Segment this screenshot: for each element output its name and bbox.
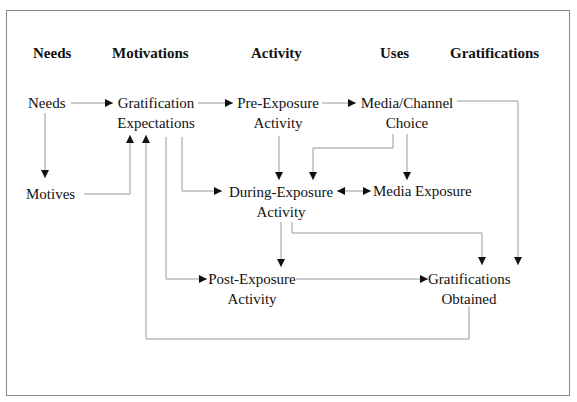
node-gratification-expectations-line2: Expectations: [114, 113, 198, 133]
node-gratification-expectations-line1: Gratification: [114, 93, 198, 113]
header-uses: Uses: [380, 45, 409, 62]
node-during-exposure-line1: During-Exposure: [224, 182, 338, 202]
edge-motives-to-expectations: [84, 135, 130, 194]
node-media-channel-choice: Media/Channel Choice: [356, 93, 458, 133]
node-motives: Motives: [26, 184, 75, 204]
node-post-exposure-line2: Activity: [208, 289, 296, 309]
node-motives-label: Motives: [26, 184, 75, 204]
header-motivations: Motivations: [112, 45, 189, 62]
node-post-exposure-activity: Post-Exposure Activity: [208, 269, 296, 309]
node-gratifications-obtained-line2: Obtained: [428, 289, 510, 309]
node-gratifications-obtained-line1: Gratifications: [428, 269, 510, 289]
edge-expectations-to-during: [182, 137, 222, 191]
edge-mediachannel-to-during: [313, 134, 393, 180]
edge-during-to-gratobtained: [292, 222, 482, 265]
node-media-exposure: Media Exposure: [373, 181, 472, 201]
edge-gratobtained-to-expectations-feedback: [146, 135, 469, 339]
edge-expectations-to-post: [166, 137, 207, 279]
node-during-exposure-activity: During-Exposure Activity: [224, 182, 338, 222]
header-needs: Needs: [33, 45, 71, 62]
node-during-exposure-line2: Activity: [224, 202, 338, 222]
node-needs: Needs: [28, 93, 66, 113]
node-gratifications-obtained: Gratifications Obtained: [428, 269, 510, 309]
header-gratifications: Gratifications: [450, 45, 539, 62]
header-activity: Activity: [251, 45, 302, 62]
node-needs-label: Needs: [28, 93, 66, 113]
node-gratification-expectations: Gratification Expectations: [114, 93, 198, 133]
node-pre-exposure-activity: Pre-Exposure Activity: [234, 93, 322, 133]
node-media-exposure-label: Media Exposure: [373, 181, 472, 201]
node-pre-exposure-line1: Pre-Exposure: [234, 93, 322, 113]
node-pre-exposure-line2: Activity: [234, 113, 322, 133]
node-post-exposure-line1: Post-Exposure: [208, 269, 296, 289]
node-media-channel-line1: Media/Channel: [356, 93, 458, 113]
node-media-channel-line2: Choice: [356, 113, 458, 133]
